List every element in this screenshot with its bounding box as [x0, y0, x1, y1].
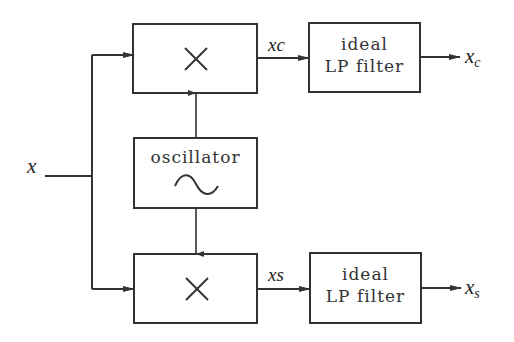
multiply-icon	[186, 278, 208, 300]
filter-bottom-line1: ideal	[310, 263, 421, 285]
output-top-base: x	[465, 44, 474, 68]
output-bottom-label: xs	[465, 275, 480, 302]
sine-wave-icon	[175, 175, 218, 194]
input-label: x	[27, 154, 36, 179]
multiply-icon	[185, 48, 207, 70]
filter-top-label: ideal LP filter	[309, 33, 420, 77]
filter-top-line1: ideal	[309, 33, 420, 55]
output-bottom-sub: s	[474, 286, 479, 301]
output-top-sub: c	[474, 55, 480, 70]
filter-top-line2: LP filter	[309, 55, 420, 77]
diagram-canvas	[0, 0, 514, 342]
xc-signal-label: xc	[268, 34, 285, 56]
output-bottom-base: x	[465, 275, 474, 299]
filter-bottom-label: ideal LP filter	[310, 263, 421, 307]
output-top-label: xc	[465, 44, 481, 71]
filter-bottom-line2: LP filter	[310, 285, 421, 307]
xs-signal-label: xs	[268, 264, 284, 286]
oscillator-label: oscillator	[134, 146, 257, 168]
